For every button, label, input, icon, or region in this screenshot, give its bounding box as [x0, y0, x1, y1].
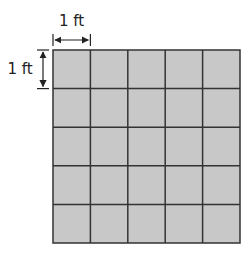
vertical-label: 1 ft	[7, 60, 32, 78]
vertical-dimension: 1 ft	[7, 50, 49, 89]
horizontal-label: 1 ft	[59, 12, 84, 30]
horizontal-dimension: 1 ft	[53, 12, 90, 46]
square-grid	[53, 50, 240, 243]
grid-diagram: 1 ft 1 ft	[0, 0, 252, 259]
